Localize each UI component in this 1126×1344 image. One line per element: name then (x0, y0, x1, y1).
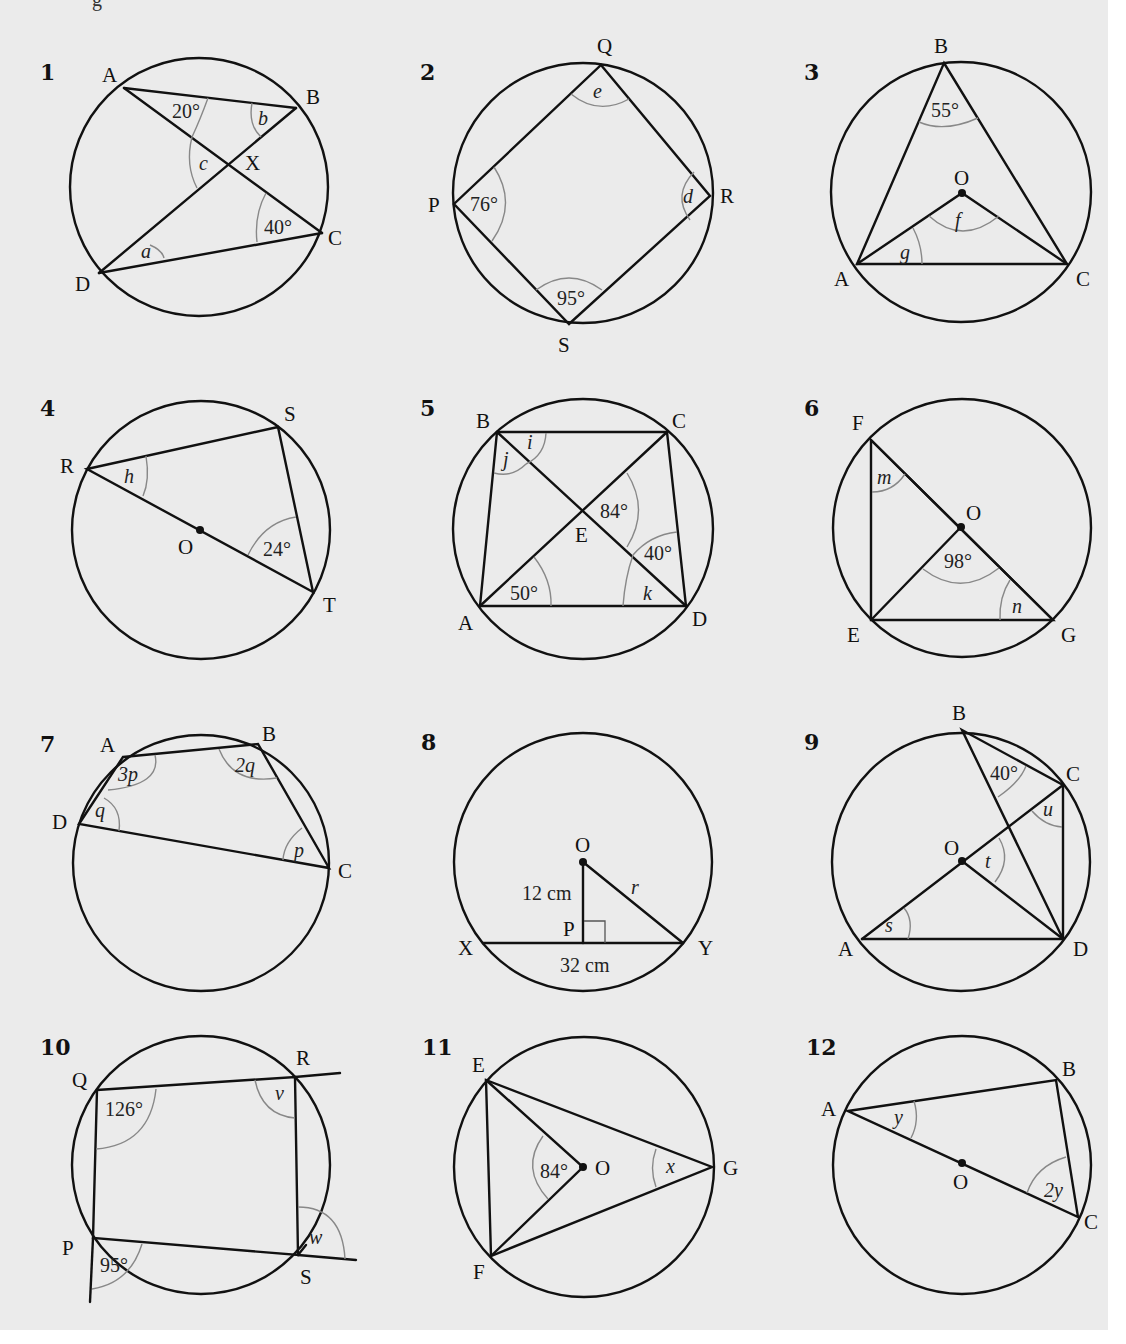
diagram-5: 5 B C A D E 84° 40° 50° i j k (420, 395, 713, 659)
point-label-f: F (473, 1260, 485, 1284)
angle-label-76: 76° (470, 193, 498, 215)
diagram-4: 4 R S T O 24° h (40, 395, 336, 659)
point-label-c: C (672, 409, 686, 433)
angle-label-20: 20° (172, 100, 200, 122)
unknown-q: q (95, 799, 105, 822)
triangle-rst (87, 427, 313, 592)
question-number: 8 (421, 729, 436, 755)
unknown-g: g (900, 241, 910, 264)
chord-bd (99, 108, 296, 273)
unknown-x: x (665, 1155, 675, 1177)
unknown-u: u (1043, 798, 1053, 820)
point-label-p: P (62, 1236, 74, 1260)
point-label-o: O (178, 535, 193, 559)
triangle-abc (857, 63, 1067, 264)
question-number: 7 (40, 731, 55, 757)
unknown-3p: 3p (117, 763, 138, 786)
angle-label-98: 98° (944, 550, 972, 572)
point-label-c: C (1084, 1210, 1098, 1234)
point-label-d: D (692, 607, 707, 631)
unknown-a: a (141, 240, 151, 262)
point-label-a: A (834, 267, 850, 291)
angle-label-50: 50° (510, 582, 538, 604)
point-label-g: G (723, 1156, 738, 1180)
angle-arc-f (929, 216, 999, 231)
point-label-t: T (323, 593, 336, 617)
unknown-v: v (275, 1082, 284, 1104)
radius-oe (871, 527, 961, 620)
point-label-g: G (1061, 623, 1076, 647)
angle-label-84: 84° (600, 500, 628, 522)
center-dot (958, 1159, 966, 1167)
point-label-b: B (1062, 1057, 1076, 1081)
angle-arc-d (150, 245, 164, 258)
point-label-o: O (595, 1156, 610, 1180)
diagram-7: 7 A B C D 3p 2q p q (40, 722, 352, 991)
point-label-o: O (953, 1170, 968, 1194)
point-label-r: R (296, 1046, 310, 1070)
point-label-y: Y (698, 936, 713, 960)
point-label-s: S (558, 333, 570, 357)
center-dot (196, 526, 204, 534)
point-label-p: P (428, 193, 440, 217)
point-label-a: A (458, 611, 474, 635)
point-label-q: Q (72, 1068, 87, 1092)
unknown-s: s (885, 914, 893, 936)
unknown-c: c (199, 152, 208, 174)
point-label-p: P (563, 917, 575, 941)
unknown-e: e (593, 80, 602, 102)
unknown-y: y (892, 1106, 903, 1129)
quadrilateral-abcd (480, 432, 686, 606)
point-label-b: B (262, 722, 276, 746)
angle-arc-n (1000, 580, 1010, 620)
angle-arc-y (911, 1101, 916, 1138)
point-label-o: O (944, 836, 959, 860)
point-label-e: E (472, 1053, 485, 1077)
angle-arc-j (494, 464, 526, 474)
question-number: 12 (806, 1034, 837, 1060)
question-number: 1 (40, 59, 55, 85)
worksheet-panel: g 1 A B C D X 20° 40° a b c 2 (0, 0, 1108, 1330)
angle-label-40: 40° (264, 216, 292, 238)
angle-label-95: 95° (557, 287, 585, 309)
length-label-op: 12 cm (522, 882, 572, 904)
point-label-e: E (575, 523, 588, 547)
question-number: 6 (804, 395, 819, 421)
point-label-a: A (102, 63, 118, 87)
point-label-o: O (575, 833, 590, 857)
unknown-2q: 2q (235, 754, 255, 777)
diagram-3: 3 B A C O 55° f g (804, 34, 1091, 322)
question-number: 11 (422, 1034, 453, 1060)
angle-arc-s (904, 908, 910, 939)
extension-ps (298, 1255, 356, 1260)
unknown-m: m (877, 466, 891, 488)
radius-od (962, 861, 1063, 939)
point-label-c: C (1066, 762, 1080, 786)
unknown-t: t (985, 850, 991, 872)
point-label-a: A (821, 1097, 837, 1121)
point-label-a: A (838, 937, 854, 961)
point-label-b: B (476, 409, 490, 433)
point-label-c: C (328, 226, 342, 250)
diagram-12: 12 A B C O y 2y (806, 1034, 1098, 1294)
point-label-b: B (306, 85, 320, 109)
angle-arc-t (995, 838, 1005, 882)
right-angle-marker (584, 921, 605, 943)
extension-qp (90, 1238, 93, 1302)
chord-ab (124, 88, 296, 108)
radii-oa-oc (857, 193, 1067, 264)
unknown-k: k (643, 582, 653, 604)
center-dot (957, 523, 965, 531)
length-label-xy: 32 cm (560, 954, 610, 976)
point-label-o: O (966, 501, 981, 525)
unknown-b: b (258, 107, 268, 129)
unknown-j: j (500, 448, 509, 471)
point-label-q: Q (597, 34, 612, 58)
question-number: 2 (420, 59, 435, 85)
extension-qr (295, 1073, 340, 1077)
angle-label-40: 40° (990, 762, 1018, 784)
unknown-p: p (292, 839, 304, 862)
angle-arc-k (623, 555, 633, 606)
quadrilateral-abcd (79, 744, 329, 868)
unknown-d: d (683, 185, 694, 207)
